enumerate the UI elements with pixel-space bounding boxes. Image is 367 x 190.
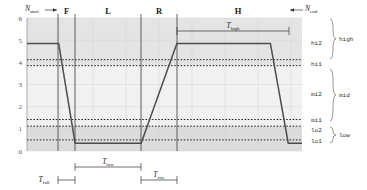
y-axis: 6 5 4 3 2 1 0 bbox=[19, 15, 28, 156]
y-tick-1: 1 bbox=[19, 125, 23, 133]
t-fall-label: Tfall bbox=[39, 175, 50, 185]
timing-diagram-figure: 6 5 4 3 2 1 0 F L R H Nstart bbox=[0, 0, 367, 190]
band-mid bbox=[27, 66, 302, 127]
level-label-hi1: hi1 bbox=[311, 61, 322, 68]
group-label-high: high bbox=[339, 36, 354, 43]
t-rise-label: Trise bbox=[153, 170, 165, 180]
brace-low bbox=[330, 127, 336, 143]
annotation-n-start: Nstart bbox=[24, 4, 57, 14]
group-label-mid: mid bbox=[339, 92, 350, 99]
region-label-f: F bbox=[64, 6, 69, 16]
region-label-r: R bbox=[156, 6, 163, 16]
right-group-labels: high mid low bbox=[339, 36, 354, 139]
timing-diagram-svg: 6 5 4 3 2 1 0 F L R H Nstart bbox=[0, 0, 367, 190]
level-label-mi1: mi1 bbox=[311, 117, 322, 124]
annotation-n-end: Nend bbox=[290, 4, 318, 14]
y-tick-5: 5 bbox=[19, 37, 23, 45]
t-low-label: Tlow bbox=[102, 157, 114, 167]
right-group-braces bbox=[330, 19, 336, 143]
level-label-hi2: hi2 bbox=[311, 40, 322, 47]
group-label-low: low bbox=[339, 132, 350, 139]
right-level-labels: hi2 hi1 mi2 mi1 lo2 lo1 bbox=[311, 40, 322, 145]
y-tick-3: 3 bbox=[19, 81, 23, 89]
y-tick-6: 6 bbox=[19, 15, 23, 23]
region-label-h: H bbox=[235, 6, 242, 16]
measure-t-fall: Tfall bbox=[39, 175, 75, 185]
n-start-label: Nstart bbox=[24, 4, 39, 14]
level-label-lo2: lo2 bbox=[311, 127, 322, 134]
brace-mid bbox=[330, 69, 336, 121]
band-low bbox=[27, 126, 302, 151]
y-tick-4: 4 bbox=[19, 59, 23, 67]
brace-high bbox=[330, 19, 336, 59]
y-tick-0: 0 bbox=[19, 148, 23, 156]
level-label-mi2: mi2 bbox=[311, 91, 322, 98]
band-high bbox=[27, 18, 302, 66]
n-end-label: Nend bbox=[304, 4, 318, 14]
region-label-l: L bbox=[105, 6, 111, 16]
measure-t-rise: Trise bbox=[141, 170, 177, 184]
region-labels: F L R H bbox=[64, 6, 242, 16]
y-tick-2: 2 bbox=[19, 103, 23, 111]
level-label-lo1: lo1 bbox=[311, 138, 322, 145]
measure-t-low: Tlow bbox=[75, 157, 141, 171]
